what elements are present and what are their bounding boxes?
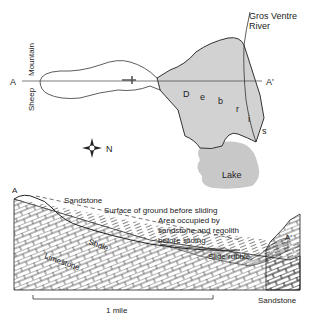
right-hill <box>266 214 300 290</box>
debris-letter: r <box>236 104 239 114</box>
compass-rose-icon <box>82 138 102 158</box>
north-label: N <box>106 144 113 154</box>
surface-label: Surface of ground before sliding <box>104 206 217 215</box>
mountain-label: Mountain <box>27 43 36 76</box>
slide-rubble-label: Slide rubble <box>208 252 251 261</box>
debris-letter: D <box>183 89 190 99</box>
debris-letter: b <box>218 96 223 106</box>
debris-letter: i <box>248 114 250 124</box>
debris-letter: s <box>262 126 267 136</box>
mountain-label-sheep: Sheep <box>27 87 36 111</box>
debris-letter: e <box>200 92 205 102</box>
map-label-a: A <box>10 77 16 87</box>
cross-section: A A' Sandstone Surface of ground before … <box>12 186 300 315</box>
river-label: Gros Ventre <box>249 11 297 21</box>
gros-ventre-landslide-diagram: A A' Mountain Sheep Gros Ventre River D … <box>0 0 314 326</box>
scar-area <box>40 61 160 99</box>
river-label-line2: River <box>249 21 270 31</box>
lake-label: Lake <box>222 170 242 180</box>
area-label-line1: Area occupied by <box>158 216 220 225</box>
area-label-line2: sandstone and regolith <box>158 226 239 235</box>
section-label-a: A <box>12 186 18 195</box>
debris-area <box>157 38 264 149</box>
area-label-line3: before sliding <box>158 236 206 245</box>
plan-map: A A' Mountain Sheep Gros Ventre River D … <box>10 11 297 189</box>
map-label-a-prime: A' <box>266 77 274 87</box>
scale-label: 1 mile <box>106 306 128 315</box>
sandstone-bottom-label: Sandstone <box>258 296 297 305</box>
section-label-a-prime: A' <box>285 233 292 242</box>
sandstone-top-label: Sandstone <box>64 196 103 205</box>
